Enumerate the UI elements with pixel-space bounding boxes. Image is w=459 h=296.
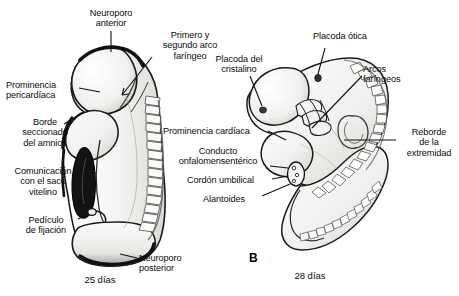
otic-placode xyxy=(315,74,321,81)
cardiac-prominence xyxy=(261,131,313,176)
panel-letter-b: B xyxy=(249,251,258,265)
label-conducto-onfalomensenterico: Conducto onfalomensentérico xyxy=(168,146,268,167)
umbilical-vessel xyxy=(295,173,298,176)
lens-placode xyxy=(260,107,267,113)
label-arcos-faringeos: Arcos faríngeos xyxy=(363,64,419,85)
caption-25-dias: 25 días xyxy=(70,274,130,285)
embryo-28-days xyxy=(247,58,388,250)
vitelline-duct-vessel xyxy=(292,166,296,170)
leader-alantoides xyxy=(262,184,290,196)
label-cordon-umbilical: Cordón umbilical xyxy=(187,175,271,185)
embryo-development-figure: Neuroporo anterior Primero y segundo arc… xyxy=(0,0,459,296)
allantois-vessel xyxy=(292,179,295,182)
label-borde-seccionado-del-amnios: Borde seccionado del amnios xyxy=(12,117,78,148)
label-reborde-de-la-extremidad: Reborde de la extremidad xyxy=(400,127,458,158)
caption-28-dias: 28 días xyxy=(280,270,340,281)
label-alantoides: Alantoides xyxy=(203,194,261,204)
label-neuroporo-posterior: Neuroporo posterior xyxy=(139,253,203,274)
label-neuroporo-anterior: Neuroporo anterior xyxy=(78,8,144,29)
label-pediculo-de-fijacion: Pedículo de fijación xyxy=(15,215,77,236)
label-prominencia-cardiaca: Prominencia cardíaca xyxy=(163,126,269,136)
label-prominencia-pericardiaca: Prominencia pericardíaca xyxy=(6,80,78,101)
label-placoda-del-cristalino: Placoda del cristalino xyxy=(205,54,273,75)
label-comunicacion-con-el-saco-vitelino: Comunicación con el saco vitelino xyxy=(4,166,82,197)
label-placoda-otica: Placoda ótica xyxy=(313,31,389,41)
